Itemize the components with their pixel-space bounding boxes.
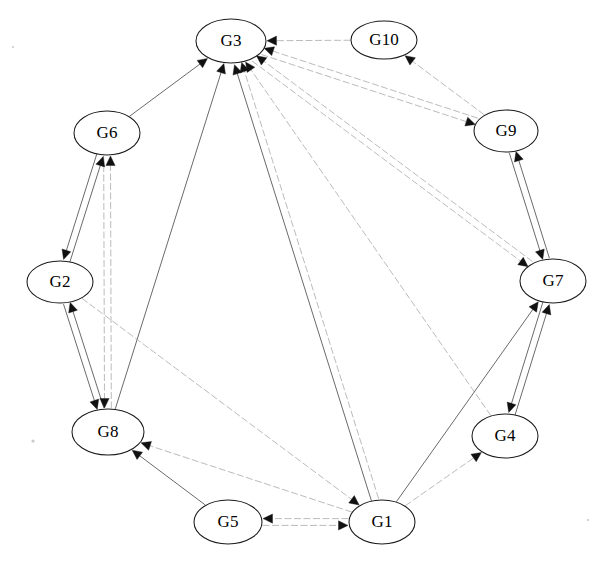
arrowhead-g1-to-g4 [471,453,481,462]
node-g5[interactable]: G5 [194,500,262,544]
node-g10[interactable]: G10 [351,21,417,59]
arrowhead-g7-to-g3 [256,56,266,65]
edge-g2-to-g8 [64,304,95,402]
arrowhead-g2-to-g8 [90,399,99,409]
arrowhead-g2-to-g1 [349,496,359,505]
arrowhead-g9-to-g7 [535,249,544,259]
edge-g1-to-g3 [244,70,379,499]
arrowhead-g8-to-g6 [106,156,115,166]
edge-g1-to-g3 [237,72,372,501]
edge-g6-to-g2 [66,154,97,252]
edge-g6-to-g8 [104,156,105,401]
arrowhead-g3-to-g9 [465,117,475,126]
node-g6[interactable]: G6 [74,111,140,155]
node-label-g5: G5 [218,512,239,531]
edge-g7-to-g9 [518,159,549,258]
arrowhead-g3-to-g7 [518,257,528,266]
arrowhead-g7-to-g9 [514,152,523,162]
edge-g4-to-g3 [250,69,491,416]
node-label-g7: G7 [543,271,564,290]
arrowhead-g10-to-g3 [267,36,277,45]
node-g1[interactable]: G1 [349,500,415,544]
arrowhead-g8-to-g3 [217,64,226,74]
node-g7[interactable]: G7 [520,259,586,303]
arrowhead-g6-to-g2 [62,249,71,259]
arrowhead-g6-to-g8 [100,399,109,409]
arrowhead-g1-to-g7 [529,302,538,312]
edge-g3-to-g7 [252,61,522,262]
arrowhead-g8-to-g2 [69,303,78,313]
edge-g8-to-g2 [73,310,104,408]
arrowhead-g5-to-g1 [339,521,349,530]
edge-g8-to-g6 [111,164,112,408]
node-label-g9: G9 [496,121,517,140]
arrowhead-g9-to-g10 [405,56,415,65]
node-label-g1: G1 [372,512,393,531]
edge-g2-to-g1 [82,298,353,500]
scan-speck [587,519,589,521]
arrowhead-g1-to-g5 [263,514,273,523]
arrowhead-g2-to-g6 [96,157,105,167]
arrowhead-layer [62,36,551,530]
node-g2[interactable]: G2 [27,261,93,303]
edge-g2-to-g6 [70,164,101,262]
node-label-g8: G8 [98,422,119,441]
arrowhead-g9-to-g3 [264,47,274,56]
edge-g5-to-g8 [139,455,206,505]
graph-canvas: G3G10G9G7G4G1G5G8G2G6 [0,0,604,566]
edge-g6-to-g3 [129,63,201,116]
edge-g3-to-g9 [261,55,467,123]
node-g9[interactable]: G9 [474,110,538,152]
node-label-g3: G3 [221,31,242,50]
node-label-g10: G10 [369,30,398,49]
edge-g1-to-g4 [405,457,475,506]
arrowhead-g6-to-g3 [197,58,207,67]
arrowhead-g4-to-g7 [542,305,551,315]
edge-g1-to-g8 [149,445,352,512]
scan-speck [31,439,34,442]
node-g3[interactable]: G3 [196,19,266,63]
arrowhead-g5-to-g8 [132,450,142,459]
edge-g9-to-g3 [272,51,478,119]
edge-g7-to-g3 [263,61,533,262]
arrowhead-g7-to-g4 [507,402,516,412]
node-g4[interactable]: G4 [472,414,538,458]
node-label-g2: G2 [50,272,71,291]
directed-graph-svg: G3G10G9G7G4G1G5G8G2G6 [0,0,604,566]
node-g8[interactable]: G8 [72,409,144,455]
arrowhead-g1-to-g8 [141,441,151,450]
scan-speck [12,46,14,48]
node-label-g6: G6 [97,123,118,142]
edge-g9-to-g7 [509,153,540,252]
edge-g9-to-g10 [411,60,484,114]
node-label-g4: G4 [495,426,516,445]
